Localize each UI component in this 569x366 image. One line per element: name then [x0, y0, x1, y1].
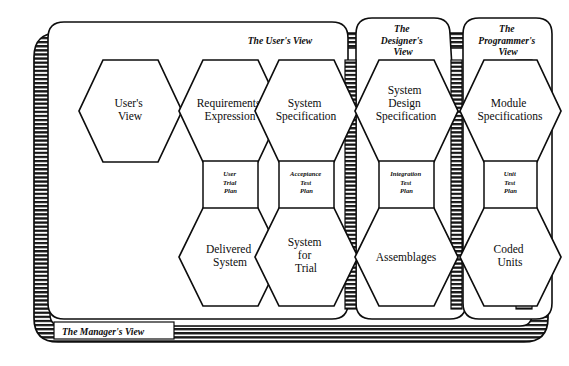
- hex-line: Assemblages: [376, 251, 437, 264]
- box-acceptance-test-plan: Acceptance Test Plan: [279, 161, 334, 209]
- hex-line: for: [298, 249, 312, 261]
- box-integration-test-plan: Integration Test Plan: [379, 161, 434, 209]
- plan-line: Unit: [504, 170, 516, 177]
- hex-line: System: [388, 84, 422, 97]
- hex-line: System: [288, 97, 322, 110]
- svg-text:Delivered System: Delivered System: [206, 243, 254, 269]
- hex-line: Design: [388, 97, 421, 110]
- plan-line: User: [223, 170, 236, 177]
- plan-line: Test: [300, 179, 311, 186]
- hex-line: Coded: [494, 243, 524, 255]
- vp-model-diagram: The User's View The Designer's View The …: [0, 0, 569, 366]
- hex-line: Specification: [276, 110, 337, 123]
- box-user-trial-plan: User Trial Plan: [203, 161, 258, 209]
- plan-line: Plan: [504, 187, 517, 194]
- hex-line: View: [118, 110, 143, 122]
- hex-line: Units: [498, 256, 523, 268]
- panel-divider-designer-programmer: [451, 60, 462, 309]
- hex-line: Trial: [295, 262, 317, 274]
- plan-line: Test: [504, 179, 515, 186]
- plan-line: Acceptance: [289, 170, 321, 177]
- plan-line: Plan: [400, 187, 413, 194]
- svg-text:User Trial Plan: User Trial Plan: [223, 170, 238, 194]
- diagram-canvas: The User's View The Designer's View The …: [0, 0, 569, 366]
- hex-line: Specifications: [477, 110, 543, 123]
- hex-line: Specification: [376, 110, 437, 123]
- hex-line: Requirements: [197, 97, 261, 110]
- hex-line: Expression: [204, 110, 255, 123]
- svg-text:Requirements Expression: Requirements Expression: [197, 97, 264, 123]
- plan-line: Plan: [224, 187, 237, 194]
- panel-user-view-label: The User's View: [248, 35, 313, 46]
- hex-line: Module: [491, 97, 527, 109]
- manager-view-label-tab: The Manager's View: [54, 322, 174, 339]
- svg-text:User's View: User's View: [114, 97, 145, 122]
- plan-line: Integration: [389, 170, 421, 177]
- hex-line: System: [213, 256, 247, 269]
- plan-line: Trial: [223, 179, 236, 186]
- plan-line: Plan: [300, 187, 313, 194]
- manager-view-label: The Manager's View: [62, 326, 145, 337]
- box-unit-test-plan: Unit Test Plan: [484, 161, 537, 209]
- svg-text:Coded Units: Coded Units: [494, 243, 527, 268]
- hex-line: System: [288, 236, 322, 249]
- svg-text:Assemblages: Assemblages: [376, 251, 437, 264]
- plan-line: Test: [400, 179, 411, 186]
- hex-line: User's: [114, 97, 143, 109]
- hex-line: Delivered: [206, 243, 252, 255]
- svg-text:Unit Test Plan: Unit Test Plan: [504, 170, 518, 194]
